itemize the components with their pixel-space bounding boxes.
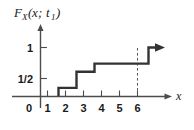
x-tick-label-2: 2 (62, 102, 68, 114)
x-tick-label-4: 4 (98, 102, 105, 114)
y-tick-label-half: 1/2 (18, 73, 33, 85)
y-axis-caption: F X ( x ; t 1 ) (13, 5, 60, 22)
x-tick-label-6: 6 (134, 102, 140, 114)
y-axis-caption-paren-close: ) (55, 5, 60, 20)
x-tick-label-5: 5 (116, 102, 122, 114)
x-axis-label: x (175, 89, 182, 103)
cdf-curve-arrowhead (155, 43, 165, 52)
x-axis-arrowhead (165, 93, 173, 99)
y-axis (37, 24, 43, 108)
x-axis-ticks: 0 1 2 3 4 5 6 (26, 91, 141, 115)
x-axis: x (12, 89, 182, 103)
y-tick-label-1: 1 (27, 42, 33, 54)
y-axis-caption-subscript-X: X (21, 12, 28, 22)
x-tick-label-3: 3 (80, 102, 86, 114)
origin-label: 0 (26, 102, 32, 114)
y-axis-caption-variable-x: x (31, 5, 38, 20)
y-axis-arrowhead (37, 24, 43, 31)
cdf-step-curve (59, 48, 159, 97)
plot-svg: F X ( x ; t 1 ) x 1 1/2 (0, 0, 194, 130)
x-tick-label-1: 1 (44, 102, 50, 114)
y-axis-caption-separator: ; (38, 5, 42, 20)
cdf-step-function-figure: F X ( x ; t 1 ) x 1 1/2 (0, 0, 194, 130)
y-axis-caption-param-t: t (46, 5, 50, 20)
y-axis-ticks: 1 1/2 (18, 42, 47, 85)
y-axis-caption-param-subscript-1: 1 (51, 12, 56, 22)
